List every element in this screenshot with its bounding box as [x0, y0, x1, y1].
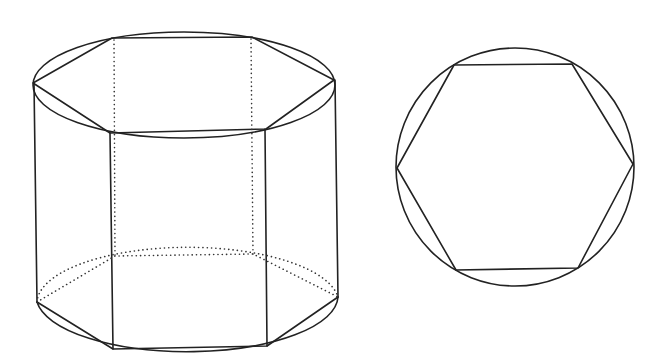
- circumscribed-circle: [396, 48, 634, 286]
- inscribed-hexagon: [397, 64, 633, 270]
- geometry-diagram: [0, 0, 663, 362]
- prism-front-left-edge: [110, 133, 113, 349]
- cylinder-bottom-front-arc: [37, 297, 338, 352]
- prism-front-right-edge: [265, 129, 267, 346]
- cylinder-right-side: [335, 80, 338, 297]
- prism-bottom-front-edges: [37, 297, 338, 349]
- cylinder-left-side: [34, 83, 37, 302]
- prism-back-right-edge-hidden: [251, 39, 253, 254]
- cylinder-top-ellipse: [33, 32, 335, 138]
- prism-bottom-back-edges-hidden: [37, 254, 338, 302]
- hexagonal-prism-in-cylinder: [33, 32, 338, 352]
- prism-back-left-edge-hidden: [114, 40, 115, 256]
- prism-top-hexagon: [33, 37, 334, 133]
- hexagon-in-circle: [396, 48, 634, 286]
